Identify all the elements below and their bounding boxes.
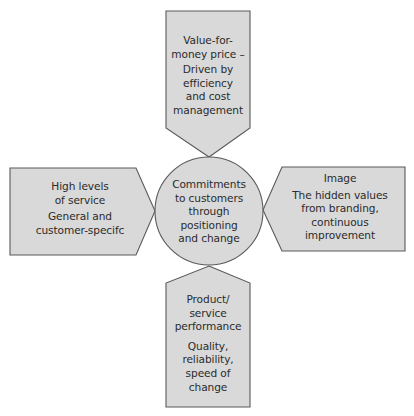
left-title-line: High levels [14, 180, 146, 194]
top-body-line: Driven by [166, 63, 250, 77]
center-line: Commitments [155, 178, 263, 192]
top-title-line: Value-for- [166, 34, 250, 48]
bottom-title-line: performance [166, 320, 250, 334]
right-body-line: continuous [274, 216, 406, 230]
bottom-body-line: speed of [166, 367, 250, 381]
right-body-line: from branding, [274, 202, 406, 216]
left-box-text: High levels of service General and custo… [14, 180, 146, 237]
right-title-line: Image [274, 172, 406, 186]
left-body-line: General and [14, 210, 146, 224]
bottom-title-line: Product/ [166, 293, 250, 307]
top-body-line: and cost [166, 90, 250, 104]
right-body-line: The hidden values [274, 189, 406, 203]
center-line: positioning [155, 219, 263, 233]
bottom-body-line: Quality, [166, 340, 250, 354]
top-title-line: money price – [166, 48, 250, 62]
top-body-line: efficiency [166, 77, 250, 91]
bottom-box-text: Product/ service performance Quality, re… [166, 293, 250, 394]
bottom-body-line: reliability, [166, 353, 250, 367]
top-body-line: management [166, 104, 250, 118]
left-body-line: customer-specifc [14, 224, 146, 238]
center-line: to customers [155, 192, 263, 206]
right-body-line: improvement [274, 229, 406, 243]
center-line: and change [155, 232, 263, 246]
left-title-line: of service [14, 194, 146, 208]
top-box-text: Value-for- money price – Driven by effic… [166, 34, 250, 118]
bottom-title-line: service [166, 307, 250, 321]
bottom-body-line: change [166, 381, 250, 395]
right-box-text: Image The hidden values from branding, c… [274, 172, 406, 243]
center-circle-text: Commitments to customers through positio… [155, 178, 263, 246]
center-line: through [155, 205, 263, 219]
